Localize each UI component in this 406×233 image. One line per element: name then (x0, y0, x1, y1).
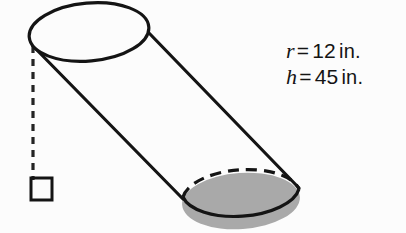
height-variable: h (286, 64, 298, 89)
height-value: 45 (315, 65, 342, 88)
cylinder-figure: r=12in. h=45in. (0, 0, 406, 233)
height-label: h=45in. (286, 64, 404, 90)
dimension-labels: r=12in. h=45in. (286, 38, 404, 90)
left-slant-line (33, 46, 183, 199)
right-angle-square-icon (31, 178, 52, 200)
radius-equals-sign: = (296, 39, 312, 62)
radius-value: 12 (312, 39, 339, 62)
cylinder-diagram-svg (0, 0, 406, 233)
radius-label: r=12in. (286, 38, 404, 64)
radius-variable: r (286, 38, 296, 63)
bottom-ellipse-shaded (180, 169, 302, 233)
height-unit: in. (341, 66, 363, 88)
radius-unit: in. (339, 40, 361, 62)
height-equals-sign: = (298, 65, 314, 88)
right-slant-line (149, 33, 299, 188)
top-ellipse (27, 0, 152, 66)
bottom-ellipse-fill (180, 169, 302, 233)
